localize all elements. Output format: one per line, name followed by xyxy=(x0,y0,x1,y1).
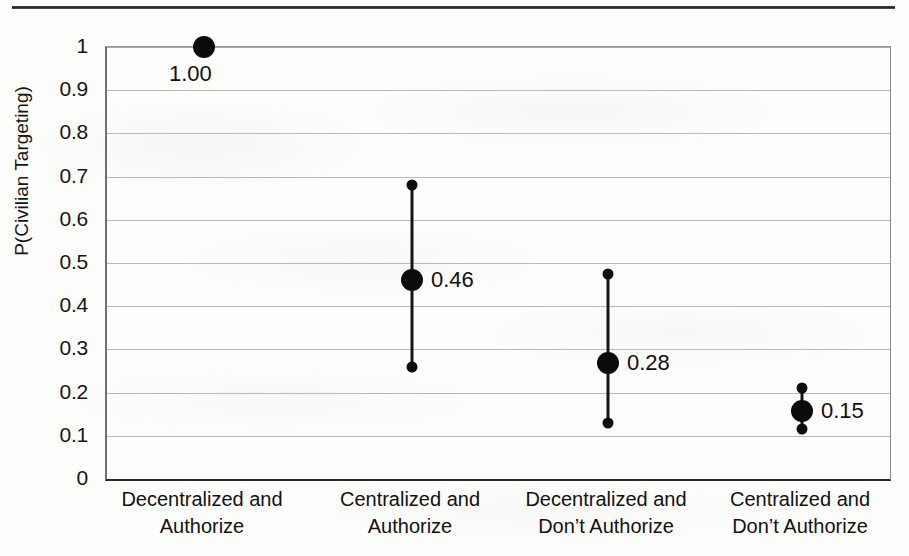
y-tick-label: 0.7 xyxy=(59,164,88,188)
y-axis-tick-labels: 1 0.9 0.8 0.7 0.6 0.5 0.4 0.3 0.2 0.1 0 xyxy=(0,46,96,478)
page-top-rule xyxy=(12,6,895,9)
error-bar-cap-upper xyxy=(603,268,614,279)
error-bar-cap-lower xyxy=(603,417,614,428)
data-point-marker[interactable] xyxy=(597,352,619,374)
data-point-value-label: 1.00 xyxy=(169,61,212,87)
x-axis-category: Decentralized and Don’t Authorize xyxy=(506,486,706,540)
chart-figure: P(Civilian Targeting) 1 0.9 0.8 0.7 0.6 … xyxy=(0,0,909,556)
y-tick-label: 0.4 xyxy=(59,293,88,317)
data-point-value-label: 0.28 xyxy=(627,350,670,376)
error-bar-cap-lower xyxy=(407,361,418,372)
data-point-marker[interactable] xyxy=(791,400,813,422)
y-tick-label: 0.3 xyxy=(59,336,88,360)
x-axis-category-labels: Decentralized and Authorize Centralized … xyxy=(105,486,888,548)
data-point-marker[interactable] xyxy=(193,36,215,58)
error-bar-cap-upper xyxy=(797,383,808,394)
x-axis-category-line1: Centralized and xyxy=(730,488,870,510)
x-axis-category: Decentralized and Authorize xyxy=(102,486,302,540)
error-bar xyxy=(607,274,610,423)
y-tick-label: 0.1 xyxy=(59,423,88,447)
x-axis-category: Centralized and Authorize xyxy=(310,486,510,540)
y-tick-label: 0.5 xyxy=(59,250,88,274)
x-axis-category-line1: Centralized and xyxy=(340,488,480,510)
data-point-value-label: 0.46 xyxy=(431,267,474,293)
y-tick-label: 0.2 xyxy=(59,380,88,404)
data-point-marker[interactable] xyxy=(401,269,423,291)
x-axis-category-line2: Authorize xyxy=(310,513,510,540)
data-series-civilian-targeting: 1.00 0.46 0.28 0.15 xyxy=(107,47,890,479)
plot-area: 1.00 0.46 0.28 0.15 xyxy=(105,46,891,481)
x-axis-category-line2: Don’t Authorize xyxy=(700,513,900,540)
y-tick-label: 0 xyxy=(77,466,88,490)
error-bar-cap-lower xyxy=(797,424,808,435)
x-axis-category-line2: Don’t Authorize xyxy=(506,513,706,540)
y-tick-label: 0.9 xyxy=(59,77,88,101)
x-axis-category-line1: Decentralized and xyxy=(121,488,282,510)
x-axis-category-line2: Authorize xyxy=(102,513,302,540)
y-tick-label: 0.8 xyxy=(59,120,88,144)
x-axis-category-line1: Decentralized and xyxy=(525,488,686,510)
x-axis-category: Centralized and Don’t Authorize xyxy=(700,486,900,540)
y-tick-label: 1 xyxy=(77,34,88,58)
data-point-value-label: 0.15 xyxy=(821,398,864,424)
error-bar-cap-upper xyxy=(407,180,418,191)
y-tick-label: 0.6 xyxy=(59,207,88,231)
